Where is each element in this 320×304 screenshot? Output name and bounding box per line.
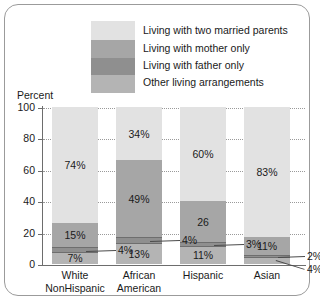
chart-frame: Living with two married parents Living w… — [4, 4, 310, 296]
bar-3-segment-4: 11% — [180, 247, 226, 264]
x-category-4: Asian — [227, 269, 307, 282]
bar-1-segment-2: 15% — [52, 223, 98, 247]
bar-1-segment-4: 7% — [52, 253, 98, 264]
legend-swatch-2 — [91, 58, 135, 75]
y-tick-label-80: 80 — [9, 132, 35, 144]
x-category-4-line1: Asian — [254, 269, 280, 281]
bar-4-segment-1: 83% — [244, 107, 290, 237]
bar-2-father-only-value: 4% — [182, 234, 197, 246]
bar-3-father-only-value: 3% — [246, 238, 261, 250]
legend-label-2: Living with father only — [143, 57, 244, 74]
x-category-1-line1: White — [62, 269, 89, 281]
bar-1: 74%15%7% — [52, 107, 98, 264]
y-axis-title: Percent — [17, 89, 53, 101]
y-tick-label-40: 40 — [9, 195, 35, 207]
bar-2-segment-1: 34% — [116, 107, 162, 160]
bar-4-segment-1-value: 83% — [244, 166, 290, 178]
bar-3-segment-1: 60% — [180, 107, 226, 201]
legend-swatch-1 — [91, 40, 135, 58]
x-axis-line — [42, 265, 306, 266]
bar-1-father-only-value: 4% — [118, 244, 133, 256]
bar-4-father-only-value: 2% — [307, 250, 318, 262]
legend-label-3: Other living arrangements — [143, 74, 264, 91]
x-category-3-line1: Hispanic — [183, 269, 223, 281]
bar-4-other-value: 4% — [307, 263, 318, 275]
legend-label-0: Living with two married parents — [143, 22, 288, 39]
bar-3-segment-4-value: 11% — [180, 249, 226, 261]
y-tick-mark-0 — [38, 265, 43, 266]
legend-label-1: Living with mother only — [143, 40, 250, 57]
x-category-2-line1: African — [123, 269, 156, 281]
y-tick-label-20: 20 — [9, 227, 35, 239]
y-tick-label-0: 0 — [9, 258, 35, 270]
legend-swatch-0 — [91, 21, 135, 40]
y-tick-label-60: 60 — [9, 164, 35, 176]
x-category-1-line2: NonHispanic — [45, 282, 105, 294]
chart-legend: Living with two married parents Living w… — [91, 21, 307, 93]
bar-3-segment-1-value: 60% — [180, 148, 226, 160]
bar-3-segment-2-value: 26 — [180, 216, 226, 228]
x-category-2-line2: American — [117, 282, 161, 294]
bar-2-segment-1-value: 34% — [116, 128, 162, 140]
bar-1-segment-1-value: 74% — [52, 159, 98, 171]
y-tick-label-100: 100 — [9, 101, 35, 113]
bar-1-segment-4-value: 7% — [52, 253, 98, 264]
bar-2-segment-2-value: 49% — [116, 193, 162, 205]
bar-2-segment-2: 49% — [116, 160, 162, 237]
bar-1-segment-2-value: 15% — [52, 229, 98, 241]
bar-1-segment-1: 74% — [52, 107, 98, 223]
legend-swatch-3 — [91, 75, 135, 93]
